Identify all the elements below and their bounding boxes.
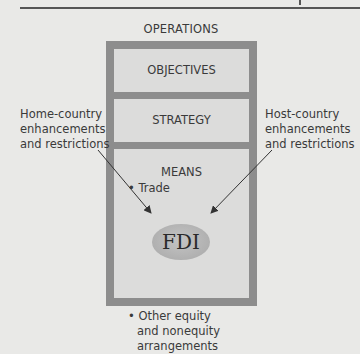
home-arrow-icon xyxy=(98,150,151,213)
host-arrow-icon xyxy=(211,150,272,213)
other-line-3: arrangements xyxy=(128,339,220,354)
